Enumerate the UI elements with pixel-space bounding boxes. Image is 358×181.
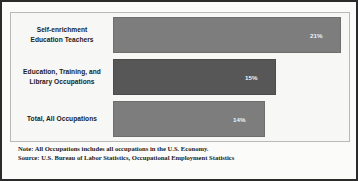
bar-total-all-occupations: 14% — [113, 101, 265, 137]
category-label-line1: Self-enrichment — [37, 26, 88, 33]
note-line: Note: All Occupations includes all occup… — [18, 145, 344, 154]
bar-row: Total, All Occupations 14% — [11, 101, 349, 137]
bar-value-label: 14% — [233, 116, 246, 123]
bar-value-label: 15% — [245, 74, 258, 81]
chart-figure: Self-enrichment Education Teachers 21% E… — [0, 0, 358, 181]
bar-self-enrichment-education-teachers: 21% — [113, 17, 341, 53]
plot-area: Self-enrichment Education Teachers 21% E… — [10, 12, 350, 142]
footnotes: Note: All Occupations includes all occup… — [18, 145, 344, 163]
source-line: Source: U.S. Bureau of Labor Statistics,… — [18, 154, 344, 163]
category-label-line2: Education Teachers — [30, 36, 93, 43]
category-label-self-enrichment-education-teachers: Self-enrichment Education Teachers — [13, 17, 111, 53]
category-label-line1: Total, All Occupations — [27, 115, 97, 122]
bar-education-training-and-library-occupations: 15% — [113, 59, 276, 95]
bar-value-label: 21% — [310, 32, 323, 39]
category-label-line2: Library Occupations — [29, 78, 94, 85]
bar-row: Self-enrichment Education Teachers 21% — [11, 17, 349, 53]
category-label-line1: Education, Training, and — [23, 68, 101, 75]
category-label-total-all-occupations: Total, All Occupations — [13, 101, 111, 137]
bar-row: Education, Training, and Library Occupat… — [11, 59, 349, 95]
category-label-education-training-and-library-occupations: Education, Training, and Library Occupat… — [13, 59, 111, 95]
